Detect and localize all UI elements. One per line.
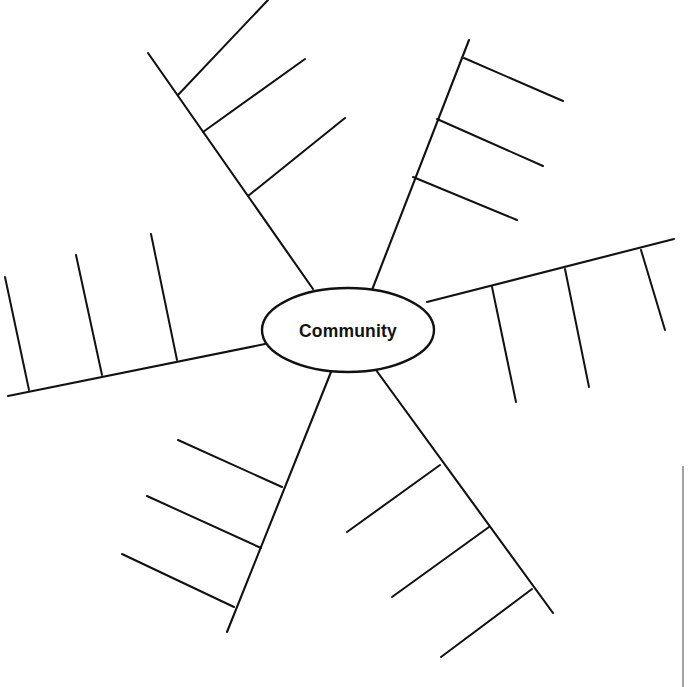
concept-map-svg: Community: [0, 0, 690, 687]
center-node-layer: Community: [262, 288, 434, 372]
center-node-label: Community: [299, 321, 397, 341]
diagram-canvas: Community: [0, 0, 690, 687]
